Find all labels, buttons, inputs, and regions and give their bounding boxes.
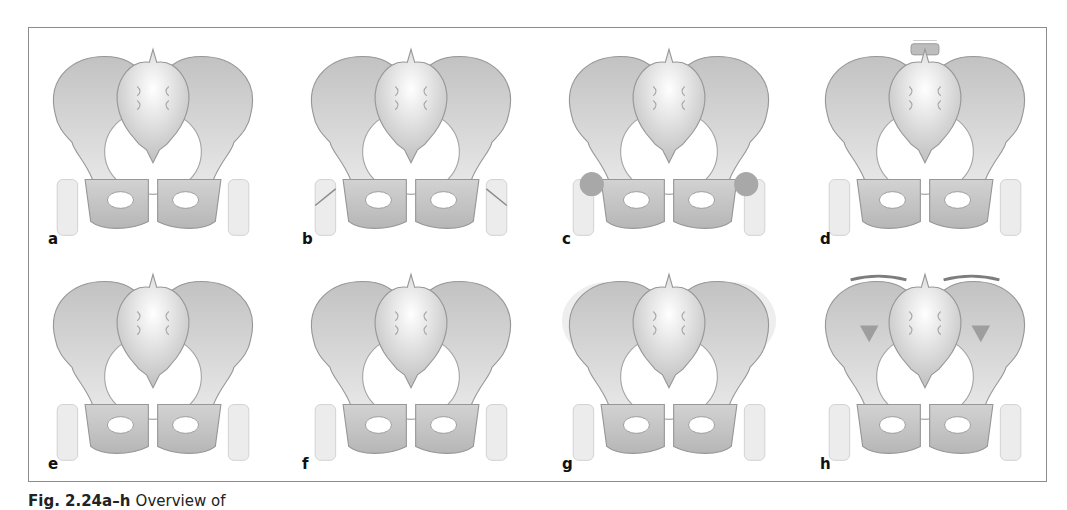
panel-label: d: [820, 230, 831, 248]
pelvis-illustration: [800, 40, 1050, 240]
figure-caption: Fig. 2.24a–h Overview of: [28, 492, 225, 510]
panel-e: e: [28, 265, 278, 480]
panel-label: b: [302, 230, 313, 248]
pelvis-illustration: [286, 40, 536, 240]
panel-a: a: [28, 40, 278, 255]
panel-c: c: [544, 40, 794, 255]
caption-number: Fig. 2.24a–h: [28, 492, 130, 510]
pelvis-illustration: [544, 265, 794, 465]
panel-label: c: [562, 230, 571, 248]
panel-d: d: [800, 40, 1050, 255]
panel-f: f: [286, 265, 536, 480]
panel-b: b: [286, 40, 536, 255]
pelvis-illustration: [800, 265, 1050, 465]
panel-h: h: [800, 265, 1050, 480]
panel-label: h: [820, 455, 831, 473]
pelvis-illustration: [28, 40, 278, 240]
pelvis-illustration: [28, 265, 278, 465]
panel-g: g: [544, 265, 794, 480]
panel-label: a: [48, 230, 58, 248]
panel-label: e: [48, 455, 58, 473]
pelvis-illustration: [286, 265, 536, 465]
caption-text: Overview of: [136, 492, 226, 510]
panel-label: f: [302, 455, 309, 473]
pelvis-illustration: [544, 40, 794, 240]
panel-label: g: [562, 455, 573, 473]
